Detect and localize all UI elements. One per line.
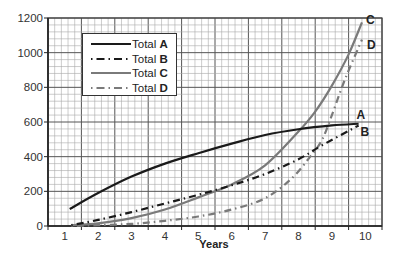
legend-label: Total bbox=[132, 82, 160, 94]
end-labels: ABCD bbox=[357, 13, 376, 139]
x-tick-label: 1 bbox=[61, 230, 67, 242]
x-tick-label: 4 bbox=[162, 230, 169, 242]
x-tick-label: 6 bbox=[228, 230, 234, 242]
line-chart: 02004006008001000120012345678910Years AB… bbox=[0, 0, 402, 262]
legend: Total A Total B Total C Total D bbox=[82, 33, 177, 96]
end-label-b: B bbox=[361, 125, 370, 139]
solid-line-swatch-icon bbox=[89, 69, 131, 77]
x-tick-label: 10 bbox=[359, 230, 372, 242]
y-tick-label: 200 bbox=[24, 185, 43, 197]
dash-dot-line-swatch-icon bbox=[89, 84, 131, 92]
y-tick-label: 800 bbox=[24, 81, 43, 93]
legend-item-d: Total D bbox=[89, 81, 172, 96]
x-tick-label: 9 bbox=[329, 230, 335, 242]
legend-label: Total bbox=[132, 53, 160, 65]
x-tick-label: 3 bbox=[128, 230, 134, 242]
y-tick-label: 600 bbox=[24, 116, 43, 128]
legend-item-c: Total C bbox=[89, 66, 172, 81]
x-tick-label: 8 bbox=[295, 230, 301, 242]
x-axis-title: Years bbox=[199, 238, 228, 250]
legend-label: Total bbox=[132, 67, 160, 79]
legend-item-a: Total A bbox=[89, 37, 172, 52]
end-label-d: D bbox=[367, 38, 376, 52]
axes: 02004006008001000120012345678910Years bbox=[17, 12, 382, 250]
legend-item-b: Total B bbox=[89, 52, 172, 67]
y-tick-label: 0 bbox=[37, 220, 43, 232]
end-label-c: C bbox=[366, 13, 375, 27]
legend-label: Total bbox=[132, 38, 160, 50]
y-tick-label: 1200 bbox=[17, 12, 43, 24]
legend-letter: C bbox=[160, 67, 168, 79]
legend-letter: D bbox=[160, 82, 168, 94]
x-tick-label: 7 bbox=[262, 230, 268, 242]
x-tick-label: 2 bbox=[95, 230, 101, 242]
solid-line-swatch-icon bbox=[89, 40, 131, 48]
end-label-a: A bbox=[357, 108, 366, 122]
y-tick-label: 400 bbox=[24, 151, 43, 163]
y-tick-label: 1000 bbox=[17, 47, 43, 59]
dash-dot-line-swatch-icon bbox=[89, 55, 131, 63]
legend-letter: A bbox=[160, 38, 168, 50]
legend-letter: B bbox=[160, 53, 168, 65]
